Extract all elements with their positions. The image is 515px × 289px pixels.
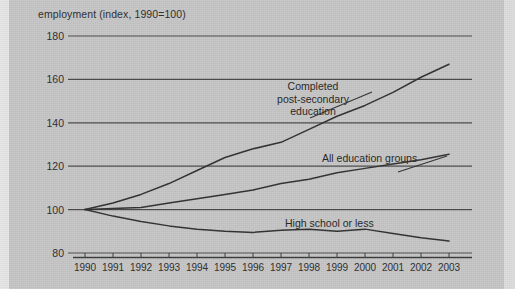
plot-area xyxy=(0,0,515,289)
series-line-2 xyxy=(85,210,449,241)
series-line-0 xyxy=(85,64,449,209)
leader-line-1 xyxy=(398,156,447,172)
series-line-1 xyxy=(85,154,449,209)
chart-figure: employment (index, 1990=100) 180 160 140… xyxy=(0,0,515,289)
series-lines-group xyxy=(85,64,449,241)
annotation-leader-lines xyxy=(310,92,447,172)
